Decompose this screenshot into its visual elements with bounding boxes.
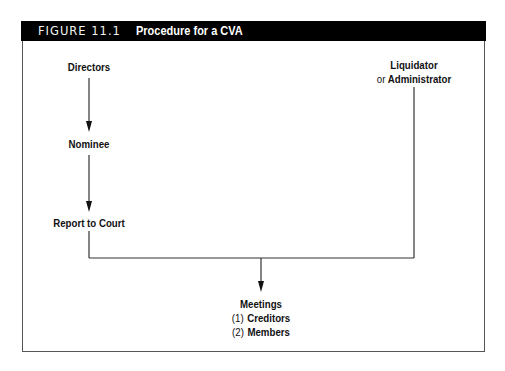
arrowhead-icon — [86, 121, 92, 132]
arrowhead-icon — [86, 201, 92, 212]
arrowhead-icon — [258, 281, 264, 292]
administrator-label: Administrator — [388, 73, 451, 85]
meetings-label: Meetings — [232, 297, 290, 311]
node-nominee: Nominee — [69, 137, 110, 151]
node-directors: Directors — [68, 60, 111, 74]
liquidator-label: Liquidator — [377, 58, 451, 72]
node-meetings: Meetings (1)Creditors (2)Members — [232, 297, 290, 339]
or-label: or — [377, 73, 386, 85]
node-report-to-court: Report to Court — [53, 216, 125, 230]
meetings-item-members: (2)Members — [232, 325, 290, 339]
node-liquidator-or-administrator: Liquidator or Administrator — [377, 58, 451, 86]
meetings-item-creditors: (1)Creditors — [232, 311, 290, 325]
